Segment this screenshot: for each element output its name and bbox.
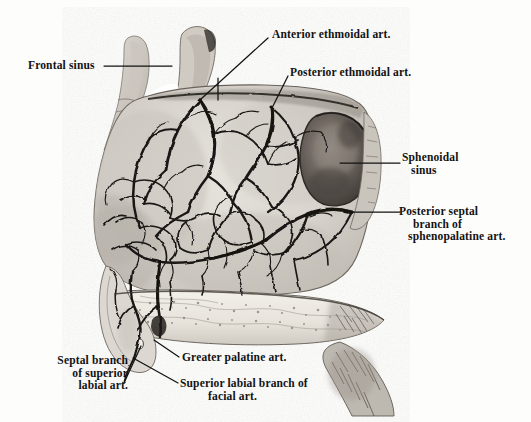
label-superior-labial-line1: Superior labial branch of xyxy=(180,377,308,390)
label-anterior-ethmoidal-art: Anterior ethmoidal art. xyxy=(272,28,391,41)
label-posterior-septal-branch: Posterior septal branch of sphenopalatin… xyxy=(399,205,505,243)
anatomical-plate: Frontal sinus Anterior ethmoidal art. Po… xyxy=(0,0,531,422)
label-septal-branch-line2: of superior xyxy=(36,367,128,380)
label-septal-branch-line1: Septal branch xyxy=(36,354,128,367)
label-frontal-sinus: Frontal sinus xyxy=(28,59,95,72)
label-septal-branch-superior-labial: Septal branch of superior labial art. xyxy=(36,354,128,392)
label-superior-labial-line2: facial art. xyxy=(180,390,308,403)
label-septal-branch-line3: labial art. xyxy=(36,379,128,392)
label-greater-palatine-art: Greater palatine art. xyxy=(182,351,287,364)
label-sphenoidal-sinus-line1: Sphenoidal xyxy=(402,151,458,164)
label-posterior-septal-line3: sphenopalatine art. xyxy=(399,230,505,243)
label-posterior-septal-line1: Posterior septal xyxy=(399,205,505,218)
label-posterior-septal-line2: branch of xyxy=(399,218,505,231)
label-sphenoidal-sinus-line2: sinus xyxy=(402,164,458,177)
label-superior-labial-branch-facial: Superior labial branch of facial art. xyxy=(180,377,308,402)
label-sphenoidal-sinus: Sphenoidal sinus xyxy=(402,151,458,176)
label-posterior-ethmoidal-art: Posterior ethmoidal art. xyxy=(290,66,411,79)
